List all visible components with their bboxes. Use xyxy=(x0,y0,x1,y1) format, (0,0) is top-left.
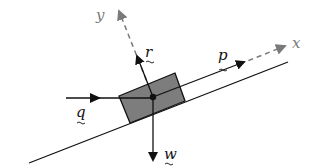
force-p-label: p xyxy=(218,46,228,64)
incline-surface xyxy=(29,62,288,163)
y-axis-label: y xyxy=(95,6,105,24)
force-w-label: w xyxy=(164,145,177,163)
x-axis-label: x xyxy=(292,34,301,52)
center-of-mass-dot xyxy=(150,94,156,100)
force-q-label: q xyxy=(76,103,86,121)
w-tilde xyxy=(165,163,173,165)
force-q-arrowhead xyxy=(90,93,101,103)
inclined-plane-diagram: y x r p q w xyxy=(0,0,317,168)
r-tilde xyxy=(146,61,154,63)
x-axis-arrow xyxy=(240,46,285,64)
force-r-label: r xyxy=(145,43,153,61)
q-tilde xyxy=(77,122,85,124)
